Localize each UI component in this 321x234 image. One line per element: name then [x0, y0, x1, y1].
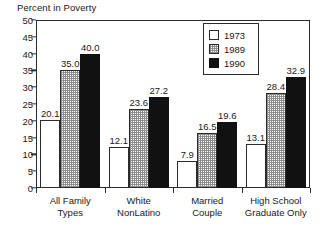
y-axis-tick-label: 35	[3, 65, 33, 76]
bar-1990-group-3	[217, 122, 237, 188]
y-axis-tick-label: 40	[3, 48, 33, 59]
bar-1973-group-4	[246, 144, 266, 188]
category-label-line-2: Types	[50, 207, 91, 219]
bar-value-label: 7.9	[181, 149, 194, 160]
bar-value-label: 12.1	[110, 135, 129, 146]
x-axis-tick-mark	[310, 188, 311, 193]
bar-value-label: 40.0	[81, 42, 100, 53]
bar-1989-group-1	[60, 70, 80, 188]
bar-1973-group-3	[177, 161, 197, 188]
y-axis-tick-label: 50	[3, 15, 33, 26]
bar-1973-group-1	[40, 120, 60, 188]
x-axis-tick-mark	[105, 188, 106, 193]
legend-item-1989: 1989	[209, 43, 245, 55]
legend-swatch-icon	[209, 44, 219, 54]
x-axis-category-label: All FamilyTypes	[50, 195, 91, 218]
legend-item-label: 1973	[224, 30, 245, 41]
y-axis-tick-label: 20	[3, 115, 33, 126]
bar-value-label: 20.1	[41, 108, 60, 119]
chart-title: Percent in Poverty	[17, 2, 96, 13]
y-axis: 50454035302520151050	[0, 20, 33, 188]
bar-1990-group-2	[149, 97, 169, 188]
bar-1973-group-2	[109, 147, 129, 188]
y-axis-tick-label: 10	[3, 149, 33, 160]
bar-1990-group-4	[286, 77, 306, 188]
legend-item-label: 1990	[224, 58, 245, 69]
category-label-line-2: NonLatino	[117, 207, 160, 219]
x-axis-tick-mark	[173, 188, 174, 193]
y-axis-tick-label: 25	[3, 99, 33, 110]
bar-value-label: 27.2	[150, 85, 169, 96]
chart-screenshot: Percent in Poverty 50454035302520151050 …	[0, 0, 321, 234]
y-axis-tick-label: 30	[3, 82, 33, 93]
bar-1990-group-1	[80, 54, 100, 188]
bar-value-label: 23.6	[130, 97, 149, 108]
legend-swatch-icon	[209, 30, 219, 40]
category-label-line-1: White	[127, 195, 151, 206]
x-axis-category-label: MarriedCouple	[191, 195, 223, 218]
x-axis-tick-mark	[242, 188, 243, 193]
y-axis-tick-label: 0	[3, 183, 33, 194]
y-axis-tick-label: 45	[3, 31, 33, 42]
bar-1989-group-2	[129, 109, 149, 188]
bar-value-label: 28.4	[267, 81, 286, 92]
chart-legend: 197319891990	[203, 23, 259, 75]
category-label-line-2: Graduate Only	[245, 207, 307, 219]
category-label-line-1: Married	[191, 195, 223, 206]
legend-item-1973: 1973	[209, 29, 245, 41]
x-axis-category-label: WhiteNonLatino	[117, 195, 160, 218]
bar-value-label: 16.5	[198, 121, 217, 132]
bar-value-label: 13.1	[247, 132, 266, 143]
bar-value-label: 32.9	[287, 65, 306, 76]
category-label-line-1: All Family	[50, 195, 91, 206]
legend-item-1990: 1990	[209, 57, 245, 69]
bar-1989-group-4	[266, 93, 286, 188]
category-label-line-1: High School	[250, 195, 301, 206]
y-axis-tick-label: 15	[3, 132, 33, 143]
bar-value-label: 35.0	[61, 58, 80, 69]
x-axis-tick-mark	[36, 188, 37, 193]
bar-1989-group-3	[197, 133, 217, 188]
legend-swatch-icon	[209, 58, 219, 68]
category-label-line-2: Couple	[191, 207, 223, 219]
x-axis-category-label: High SchoolGraduate Only	[245, 195, 307, 218]
y-axis-tick-label: 5	[3, 166, 33, 177]
bar-value-label: 19.6	[218, 110, 237, 121]
legend-item-label: 1989	[224, 44, 245, 55]
